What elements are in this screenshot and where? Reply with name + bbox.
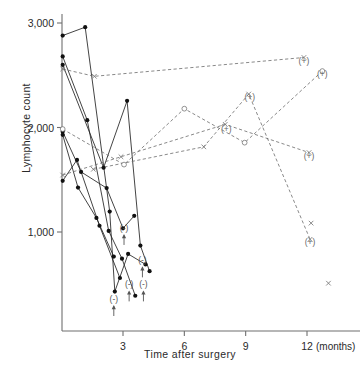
series-line bbox=[63, 160, 120, 278]
data-point-filled-circle bbox=[79, 170, 83, 174]
data-point-filled-circle bbox=[94, 216, 98, 220]
isolated-markers-group bbox=[309, 221, 331, 286]
annotation-positive: (+) bbox=[299, 56, 310, 66]
data-point-filled-circle bbox=[105, 186, 109, 190]
data-point-filled-circle bbox=[107, 229, 111, 233]
data-point-filled-circle bbox=[138, 243, 142, 247]
data-point-open-circle bbox=[122, 162, 127, 167]
annotation-arrowhead bbox=[141, 290, 145, 294]
annotation-positive: (+) bbox=[244, 92, 255, 102]
annotation-arrowhead bbox=[127, 290, 131, 294]
annotation-negative: (-) bbox=[125, 279, 134, 289]
data-point-filled-circle bbox=[120, 257, 124, 261]
series-line bbox=[63, 135, 114, 257]
y-axis-label: Lymphocyte count bbox=[20, 58, 36, 198]
data-point-open-circle bbox=[242, 140, 247, 145]
annotation-arrowhead bbox=[140, 266, 144, 270]
data-point-open-circle bbox=[60, 127, 65, 132]
annotation-negative: (-) bbox=[139, 279, 148, 289]
x-tick-label: 12 bbox=[301, 340, 313, 352]
data-point-filled-circle bbox=[132, 214, 136, 218]
data-point-filled-circle bbox=[126, 252, 130, 256]
data-point-filled-circle bbox=[101, 166, 105, 170]
lymphocyte-count-chart: (-)(-)(-)(-)(-)(+)(+)(+)(+)(+)(+) 1,0002… bbox=[0, 0, 364, 370]
data-point-filled-circle bbox=[61, 133, 65, 137]
annotation-positive: (+) bbox=[317, 69, 328, 79]
data-point-filled-circle bbox=[61, 63, 65, 67]
annotation-negative: (-) bbox=[110, 294, 119, 304]
data-point-filled-circle bbox=[83, 25, 87, 29]
data-point-filled-circle bbox=[61, 179, 65, 183]
y-tick-label: 1,000 bbox=[28, 226, 54, 238]
annotation-negative: (-) bbox=[138, 255, 147, 265]
data-point-filled-circle bbox=[76, 185, 80, 189]
series-lines-group bbox=[63, 27, 323, 296]
data-point-filled-circle bbox=[75, 158, 79, 162]
x-axis-label: Time after surgery bbox=[120, 348, 260, 360]
annotations-group: (-)(-)(-)(-)(-)(+)(+)(+)(+)(+)(+) bbox=[110, 56, 328, 316]
annotation-positive: (+) bbox=[304, 151, 315, 161]
y-tick-label: 3,000 bbox=[28, 17, 54, 29]
x-axis-ticks bbox=[123, 331, 307, 336]
axes bbox=[57, 14, 360, 336]
annotation-negative: (-) bbox=[120, 223, 129, 233]
series-line bbox=[63, 57, 304, 76]
data-point-filled-circle bbox=[125, 99, 129, 103]
data-point-filled-circle bbox=[61, 33, 65, 37]
data-point-filled-circle bbox=[61, 54, 65, 58]
annotation-positive: (+) bbox=[305, 237, 316, 247]
data-point-filled-circle bbox=[133, 294, 137, 298]
annotation-arrowhead bbox=[122, 234, 126, 238]
data-point-filled-circle bbox=[112, 254, 116, 258]
series-markers-group bbox=[60, 25, 324, 298]
plot-area: (-)(-)(-)(-)(-)(+)(+)(+)(+)(+)(+) 1,0002… bbox=[0, 0, 364, 370]
annotation-arrowhead bbox=[112, 305, 116, 309]
data-point-filled-circle bbox=[147, 269, 151, 273]
data-point-filled-circle bbox=[108, 210, 112, 214]
data-point-open-circle bbox=[182, 106, 187, 111]
data-point-filled-circle bbox=[85, 118, 89, 122]
data-point-filled-circle bbox=[118, 276, 122, 280]
x-axis-unit-label: (months) bbox=[316, 341, 355, 352]
annotation-positive: (+) bbox=[221, 124, 232, 134]
data-point-filled-circle bbox=[97, 224, 101, 228]
